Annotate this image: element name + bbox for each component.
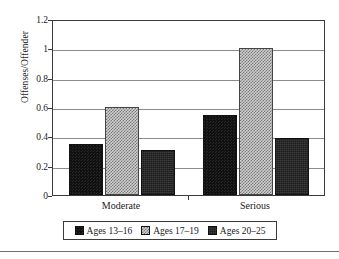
y-tick-label-0.4: 0.4 (8, 132, 48, 142)
y-tick-label-0.2: 0.2 (8, 162, 48, 172)
y-tick-label-0: 0 (8, 191, 48, 201)
y-tick-label-0.8: 0.8 (8, 74, 48, 84)
y-tick-label-1: 1 (8, 44, 48, 54)
y-tick-label-0.6: 0.6 (8, 103, 48, 113)
legend-label-ages-20-25: Ages 20–25 (220, 226, 266, 236)
footer-divider (0, 251, 339, 252)
legend-swatch-icon-ages-13-16 (75, 226, 84, 235)
bar-moderate-ages-20-25 (141, 150, 175, 196)
x-tick-mark (188, 196, 189, 200)
bar-moderate-ages-17-19 (105, 107, 139, 195)
gridline-0.6 (53, 109, 324, 110)
bar-serious-ages-13-16 (203, 115, 237, 195)
legend-swatch-icon-ages-20-25 (208, 226, 217, 235)
x-category-label-moderate: Moderate (102, 200, 140, 211)
legend-label-ages-13-16: Ages 13–16 (87, 226, 133, 236)
chart-legend: Ages 13–16 Ages 17–19 Ages 20–25 (63, 221, 277, 240)
bar-moderate-ages-13-16 (69, 144, 103, 195)
bar-serious-ages-20-25 (275, 138, 309, 195)
gridline-0.8 (53, 80, 324, 81)
bar-serious-ages-17-19 (239, 48, 273, 195)
legend-entry-ages-17-19: Ages 17–19 (141, 226, 199, 236)
legend-label-ages-17-19: Ages 17–19 (153, 226, 199, 236)
y-tick-mark (48, 196, 52, 197)
plot-area (52, 20, 325, 196)
x-category-label-serious: Serious (240, 200, 270, 211)
y-tick-label-1.2: 1.2 (8, 15, 48, 25)
gridline-1 (53, 50, 324, 51)
legend-swatch-icon-ages-17-19 (141, 226, 150, 235)
bar-chart-figure: Offenses/Offender 1.2 1 0.8 0.6 0.4 0.2 … (0, 0, 339, 259)
legend-entry-ages-20-25: Ages 20–25 (208, 226, 266, 236)
legend-entry-ages-13-16: Ages 13–16 (75, 226, 133, 236)
